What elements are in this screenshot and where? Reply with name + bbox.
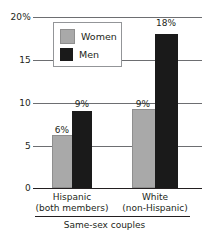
legend-item-women: Women: [60, 29, 117, 44]
axis-baseline: [33, 188, 202, 189]
legend-label-men: Men: [79, 49, 99, 60]
bar-hispanic-men: [72, 111, 92, 188]
legend-swatch-men-icon: [60, 48, 73, 61]
category-label-hispanic-line1: Hispanic: [53, 192, 91, 202]
category-label-white-line1: White: [142, 192, 168, 202]
bar-white-women: [132, 109, 157, 188]
value-label-white-women: 9%: [128, 99, 158, 109]
value-label-hispanic-men: 9%: [67, 99, 97, 109]
x-axis-title: Same-sex couples: [0, 220, 209, 230]
group-bracket-rule: [35, 216, 190, 217]
legend-swatch-women-icon: [60, 29, 75, 44]
y-tick-label-5: 5: [1, 141, 31, 151]
legend-label-women: Women: [81, 31, 117, 42]
legend-item-men: Men: [60, 48, 99, 61]
bar-hispanic-women: [52, 135, 74, 188]
y-tick-label-15: 15: [1, 55, 31, 65]
bar-chart: 20% 15 10 5 0 6% 9% 9% 18% Women Men His…: [0, 0, 209, 235]
y-tick-label-20: 20%: [1, 12, 31, 22]
chart-legend: Women Men: [53, 22, 122, 67]
y-tick-label-10: 10: [1, 98, 31, 108]
category-label-white-line2: (non-Hispanic): [100, 203, 209, 214]
category-label-white: White (non-Hispanic): [100, 192, 209, 214]
value-label-hispanic-women: 6%: [47, 125, 77, 135]
value-label-white-men: 18%: [151, 18, 181, 28]
bar-white-men: [155, 34, 178, 188]
